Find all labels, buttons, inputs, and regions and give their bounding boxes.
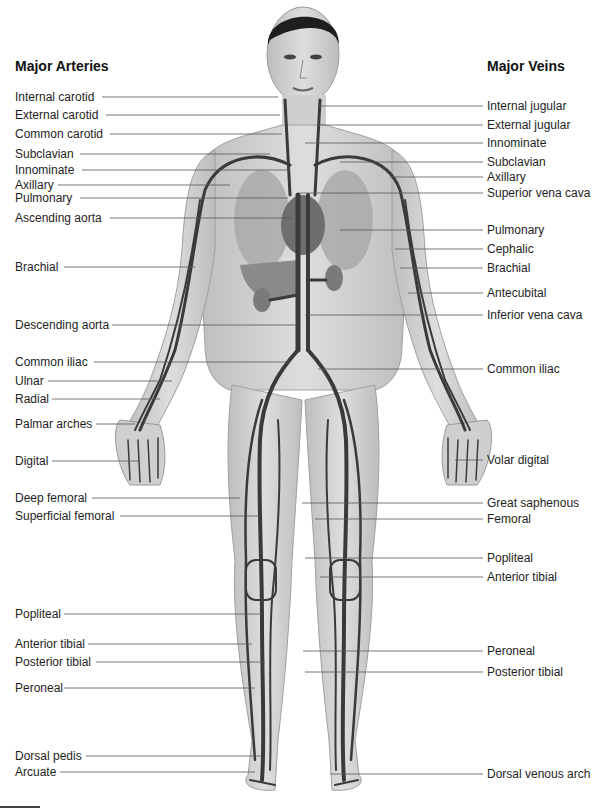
label-artery-posterior-tibial: Posterior tibial: [15, 655, 91, 669]
label-vein-subclavian: Subclavian: [487, 155, 546, 169]
label-vein-dorsal-venous-arch: Dorsal venous arch: [487, 767, 590, 781]
label-vein-popliteal: Popliteal: [487, 551, 533, 565]
label-artery-axillary: Axillary: [15, 178, 54, 192]
label-vein-femoral: Femoral: [487, 512, 531, 526]
label-vein-innominate: Innominate: [487, 136, 546, 150]
label-vein-volar-digital: Volar digital: [487, 453, 549, 467]
left-eye: [284, 55, 296, 60]
label-artery-popliteal: Popliteal: [15, 607, 61, 621]
label-artery-brachial: Brachial: [15, 260, 58, 274]
label-vein-pulmonary: Pulmonary: [487, 223, 544, 237]
right-kidney: [253, 288, 271, 312]
left-kidney: [325, 265, 343, 291]
label-artery-common-iliac: Common iliac: [15, 355, 88, 369]
label-artery-ascending-aorta: Ascending aorta: [15, 211, 102, 225]
label-artery-subclavian: Subclavian: [15, 147, 74, 161]
label-vein-common-iliac: Common iliac: [487, 362, 560, 376]
label-vein-brachial: Brachial: [487, 261, 530, 275]
label-artery-radial: Radial: [15, 392, 49, 406]
label-vein-cephalic: Cephalic: [487, 242, 534, 256]
label-artery-anterior-tibial: Anterior tibial: [15, 637, 85, 651]
label-vein-antecubital: Antecubital: [487, 286, 546, 300]
label-vein-posterior-tibial: Posterior tibial: [487, 665, 563, 679]
label-vein-anterior-tibial: Anterior tibial: [487, 570, 557, 584]
label-artery-descending-aorta: Descending aorta: [15, 318, 109, 332]
label-artery-dorsal-pedis: Dorsal pedis: [15, 749, 82, 763]
label-vein-inferior-vena-cava: Inferior vena cava: [487, 308, 582, 322]
body-silhouette: [115, 7, 491, 790]
left-lung: [317, 170, 373, 270]
label-artery-peroneal: Peroneal: [15, 681, 63, 695]
label-artery-common-carotid: Common carotid: [15, 127, 103, 141]
heart: [281, 195, 325, 255]
label-artery-pulmonary: Pulmonary: [15, 191, 72, 205]
corner-mark: [0, 806, 40, 808]
label-artery-arcuate: Arcuate: [15, 765, 56, 779]
label-vein-axillary: Axillary: [487, 170, 526, 184]
label-vein-external-jugular: External jugular: [487, 118, 570, 132]
label-artery-internal-carotid: Internal carotid: [15, 90, 94, 104]
label-artery-palmar-arches: Palmar arches: [15, 417, 92, 431]
label-artery-deep-femoral: Deep femoral: [15, 491, 87, 505]
label-artery-innominate: Innominate: [15, 163, 74, 177]
right-eye: [310, 55, 322, 60]
label-artery-ulnar: Ulnar: [15, 374, 44, 388]
label-artery-external-carotid: External carotid: [15, 108, 98, 122]
label-vein-superior-vena-cava: Superior vena cava: [487, 186, 590, 200]
label-vein-internal-jugular: Internal jugular: [487, 99, 566, 113]
label-artery-superficial-femoral: Superficial femoral: [15, 509, 114, 523]
label-artery-digital: Digital: [15, 454, 48, 468]
label-vein-great-saphenous: Great saphenous: [487, 496, 579, 510]
label-vein-peroneal: Peroneal: [487, 644, 535, 658]
